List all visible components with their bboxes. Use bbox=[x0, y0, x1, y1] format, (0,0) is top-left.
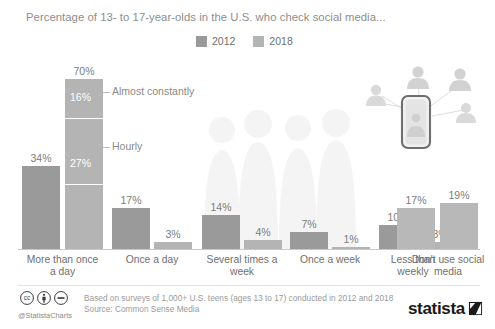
category-label-several-times-a-week: Several times a week bbox=[202, 254, 282, 277]
bar-fill bbox=[440, 203, 478, 250]
statista-charts-handle: @StatistaCharts bbox=[18, 311, 72, 320]
statista-logo-text: statista bbox=[408, 300, 465, 317]
segment-label-hourly: 27% bbox=[70, 157, 91, 169]
callout-connector bbox=[103, 147, 110, 148]
bar-2012-more-than-once-a-day: 34% bbox=[22, 166, 60, 250]
bar-fill bbox=[202, 215, 240, 250]
bar-fill bbox=[112, 208, 150, 250]
category-label-dont-use-social-media: Don't use social media bbox=[404, 254, 492, 277]
bar-2012-several-times-a-week: 14% bbox=[202, 215, 240, 250]
bar-value-label: 14% bbox=[210, 201, 231, 213]
creative-commons-icon: cc bbox=[20, 291, 34, 305]
category-label-once-a-day: Once a day bbox=[112, 254, 192, 266]
footer-divider bbox=[18, 285, 480, 286]
callout-almost-constantly: Almost constantly bbox=[112, 85, 194, 97]
bar-value-label: 34% bbox=[30, 152, 51, 164]
statista-logo-mark bbox=[468, 301, 483, 316]
footer-note: Based on surveys of 1,000+ U.S. teens (a… bbox=[84, 293, 393, 303]
bar-2018-more-than-once-a-day: 16% 27% 70% bbox=[65, 79, 103, 250]
plot-area: 34% 16% 27% 70% Almost constantly Hourly… bbox=[0, 0, 495, 329]
svg-text:cc: cc bbox=[24, 294, 31, 301]
bar-2012-once-a-day: 17% bbox=[112, 208, 150, 250]
bar-fill bbox=[397, 208, 435, 250]
bar-value-label: 4% bbox=[255, 226, 270, 238]
footer-source: Source: Common Sense Media bbox=[84, 304, 199, 314]
callout-connector bbox=[103, 92, 110, 93]
bar-value-label: 17% bbox=[405, 194, 426, 206]
creative-commons-license-icons[interactable]: cc bbox=[20, 291, 68, 305]
bar-value-label: 17% bbox=[120, 194, 141, 206]
segment-label-almost-constantly: 16% bbox=[70, 91, 91, 103]
bar-fill bbox=[22, 166, 60, 250]
segment-divider bbox=[65, 184, 103, 185]
bar-2018-dont-use-social-media: 19% bbox=[440, 203, 478, 250]
statista-chart: Percentage of 13- to 17-year-olds in the… bbox=[0, 0, 495, 329]
x-axis-line bbox=[18, 249, 480, 250]
bar-value-label: 19% bbox=[448, 189, 469, 201]
bar-value-label: 70% bbox=[73, 65, 94, 77]
bar-value-label: 7% bbox=[301, 218, 316, 230]
segment-divider bbox=[65, 118, 103, 119]
bar-2012-once-a-week: 7% bbox=[290, 232, 328, 250]
bar-value-label: 3% bbox=[165, 228, 180, 240]
callout-hourly: Hourly bbox=[112, 140, 142, 152]
bar-fill bbox=[290, 232, 328, 250]
attribution-icon bbox=[37, 291, 51, 305]
category-label-more-than-once-a-day: More than once a day bbox=[23, 254, 102, 277]
bar-2012-dont-use-social-media: 17% bbox=[397, 208, 435, 250]
category-label-once-a-week: Once a week bbox=[290, 254, 370, 266]
statista-logo[interactable]: statista bbox=[408, 300, 483, 317]
no-derivatives-icon bbox=[54, 291, 68, 305]
bar-fill: 16% 27% bbox=[65, 79, 103, 250]
bar-value-label: 1% bbox=[343, 233, 358, 245]
